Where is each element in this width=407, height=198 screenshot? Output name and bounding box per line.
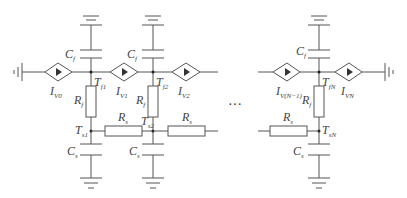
label-iv1: IV1 [115,84,128,100]
current-source-iv0-icon [45,63,72,81]
label-cs-1: Cs [67,144,78,160]
label-ivn: IVN [340,84,354,100]
current-source-iv1-icon [110,63,138,81]
thermal-circuit-diagram: … Cf Cf Cf Tf1 Tf2 TfN IV0 IV1 IV2 IV(N−… [0,0,407,198]
label-iv2: IV2 [177,84,190,100]
current-source-iv2-icon [172,63,200,81]
label-tf1: Tf1 [94,75,106,91]
label-rf-1: Rf [73,93,84,109]
right-ground-icon [385,63,393,81]
left-ground-icon [14,63,22,81]
label-ts1: Ts1 [75,123,88,139]
label-rs-1: Rs [117,110,128,126]
branch-1 [80,16,105,188]
branch-n [308,16,330,188]
resistor-rs-1 [105,126,142,136]
label-cf-1: Cf [65,47,76,63]
label-iv0: IV0 [49,84,62,100]
branch-2 [142,16,168,188]
label-ivn1: IV(N−1) [275,84,302,100]
label-rs-2: Rs [181,110,192,126]
label-rs-n: Rs [282,110,293,126]
resistor-rs-2 [168,126,205,136]
label-cs-n: Cs [293,144,304,160]
label-rf-2: Rf [135,93,146,109]
resistor-rs-n [270,126,307,136]
current-source-ivn1-icon [273,63,300,81]
label-cs-2: Cs [129,144,140,160]
current-source-ivn-icon [335,63,362,81]
label-rf-n: Rf [301,93,312,109]
label-tfn: TfN [322,75,336,91]
label-cf-n: Cf [296,44,307,60]
label-cf-2: Cf [127,47,138,63]
label-tsn: TsN [322,123,336,139]
label-tf2: Tf2 [156,75,169,91]
ellipsis: … [228,93,242,108]
